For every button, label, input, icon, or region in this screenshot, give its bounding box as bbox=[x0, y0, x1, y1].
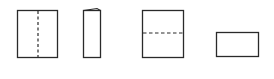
step-2-folded-vertical bbox=[84, 9, 101, 58]
sheet-outline bbox=[143, 11, 184, 58]
step-3-sheet-horizontal-fold bbox=[143, 11, 184, 58]
folded-sheet-outline bbox=[84, 11, 101, 58]
step-4-folded-horizontal bbox=[217, 33, 259, 57]
step-1-sheet-vertical-fold bbox=[18, 11, 58, 58]
folded-sheet-outline bbox=[217, 33, 259, 57]
folding-diagram bbox=[0, 0, 274, 79]
